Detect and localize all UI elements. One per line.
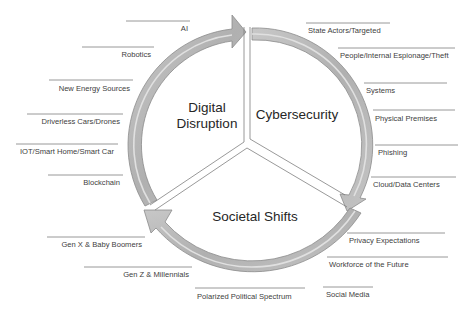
label-iot-smart-home: IOT/Smart Home/Smart Car — [20, 147, 115, 156]
label-robotics: Robotics — [121, 50, 151, 59]
label-social-media: Social Media — [326, 290, 370, 299]
segment-title-digital-line2: Disruption — [177, 116, 238, 131]
label-workforce-of-the-future: Workforce of the Future — [329, 260, 409, 269]
segment-title-digital: Digital — [188, 100, 226, 115]
segment-title-cybersecurity: Cybersecurity — [256, 107, 339, 122]
label-polarized-political-spectrum: Polarized Political Spectrum — [197, 292, 292, 301]
label-cloud-data-centers: Cloud/Data Centers — [373, 180, 440, 189]
label-ai: AI — [181, 24, 188, 33]
label-phishing: Phishing — [378, 148, 407, 157]
label-people-internal-espionage: People/Internal Espionage/Theft — [340, 51, 449, 60]
label-driverless-cars-drones: Driverless Cars/Drones — [42, 117, 121, 126]
label-new-energy-sources: New Energy Sources — [59, 84, 131, 93]
label-state-actors: State Actors/Targeted — [308, 26, 381, 35]
digital-disruption-arrow — [128, 15, 246, 206]
label-gen-x-baby-boomers: Gen X & Baby Boomers — [61, 240, 142, 249]
segment-title-societal: Societal Shifts — [212, 209, 298, 224]
label-systems: Systems — [366, 86, 395, 95]
label-gen-z-millennials: Gen Z & Millennials — [123, 270, 189, 279]
label-physical-premises: Physical Premises — [375, 114, 437, 123]
label-blockchain: Blockchain — [83, 178, 120, 187]
cycle-diagram: Digital Disruption Cybersecurity Societa… — [0, 0, 471, 313]
label-privacy-expectations: Privacy Expectations — [349, 236, 420, 245]
